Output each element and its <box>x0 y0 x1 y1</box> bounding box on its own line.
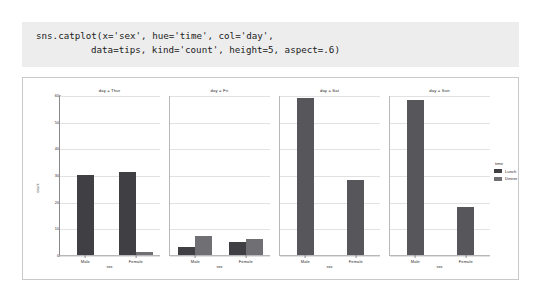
x-tick-mark <box>415 255 416 258</box>
page-root: sns.catplot(x='sex', hue='time', col='da… <box>0 0 541 304</box>
x-tick-label: Female <box>129 259 143 264</box>
x-tick-label: Female <box>239 259 253 264</box>
bar <box>136 252 153 255</box>
x-tick-label: Female <box>459 259 473 264</box>
gridline <box>390 256 490 257</box>
bar <box>297 98 314 255</box>
y-tick-label: 30 <box>45 174 59 178</box>
legend-label: Lunch <box>505 169 516 174</box>
y-tick-label: 60 <box>45 94 59 98</box>
x-tick-label: Male <box>301 259 310 264</box>
x-tick-mark <box>195 255 196 258</box>
code-line-1: sns.catplot(x='sex', hue='time', col='da… <box>36 29 519 43</box>
facet-title: day = Thur <box>59 88 160 93</box>
facet-sat: day = SatMaleFemalesex <box>279 88 380 273</box>
code-block: sns.catplot(x='sex', hue='time', col='da… <box>22 22 519 67</box>
x-tick-mark <box>305 255 306 258</box>
legend: time LunchDinner <box>494 161 540 184</box>
x-tick-mark <box>85 255 86 258</box>
legend-entries: LunchDinner <box>494 169 540 182</box>
figure-inner: count 0102030405060 day = ThurMaleFemale… <box>23 78 518 279</box>
x-axis-label: sex <box>279 265 380 269</box>
bar <box>347 180 364 255</box>
x-tick-mark <box>135 255 136 258</box>
x-axis-label: sex <box>59 265 160 269</box>
bar-group <box>170 96 270 255</box>
plot-area: MaleFemale <box>279 96 380 256</box>
x-axis-label: sex <box>169 265 270 269</box>
facet-title: day = Sun <box>389 88 490 93</box>
legend-label: Dinner <box>505 176 517 181</box>
bar <box>407 100 424 255</box>
y-tick-label: 40 <box>45 147 59 151</box>
bar <box>178 247 195 255</box>
x-tick-mark <box>245 255 246 258</box>
bar <box>246 239 263 255</box>
x-tick-mark <box>355 255 356 258</box>
bar <box>77 175 94 255</box>
y-tick-label: 0 <box>45 254 59 258</box>
x-tick-label: Male <box>81 259 90 264</box>
bar <box>119 172 136 255</box>
x-tick-label: Male <box>411 259 420 264</box>
y-tick-label: 20 <box>45 201 59 205</box>
bar-group <box>390 96 490 255</box>
legend-swatch-icon <box>494 169 502 173</box>
plot-area: MaleFemale <box>389 96 490 256</box>
code-line-2: data=tips, kind='count', height=5, aspec… <box>36 43 519 57</box>
figure-container: count 0102030405060 day = ThurMaleFemale… <box>22 77 519 280</box>
bar <box>195 236 212 255</box>
legend-item: Dinner <box>494 176 540 181</box>
facet-title: day = Sat <box>279 88 380 93</box>
gridline <box>60 256 160 257</box>
x-tick-mark <box>465 255 466 258</box>
bar <box>457 207 474 255</box>
bar-group <box>280 96 380 255</box>
gridline <box>170 256 270 257</box>
legend-swatch-icon <box>494 177 502 181</box>
bar-group <box>60 96 160 255</box>
y-tick-label: 50 <box>45 121 59 125</box>
legend-item: Lunch <box>494 169 540 174</box>
bar <box>229 242 246 255</box>
gridline <box>280 256 380 257</box>
facet-grid: day = ThurMaleFemalesexday = FriMaleFema… <box>59 88 489 273</box>
facet-sun: day = SunMaleFemalesex <box>389 88 490 273</box>
plot-area: MaleFemale <box>169 96 270 256</box>
facet-thur: day = ThurMaleFemalesex <box>59 88 160 273</box>
legend-title: time <box>494 161 540 166</box>
x-axis-label: sex <box>389 265 490 269</box>
plot-area: MaleFemale <box>59 96 160 256</box>
facet-title: day = Fri <box>169 88 270 93</box>
x-tick-label: Male <box>191 259 200 264</box>
y-axis: 0102030405060 <box>39 96 59 256</box>
y-tick-label: 10 <box>45 227 59 231</box>
facet-fri: day = FriMaleFemalesex <box>169 88 270 273</box>
x-tick-label: Female <box>349 259 363 264</box>
